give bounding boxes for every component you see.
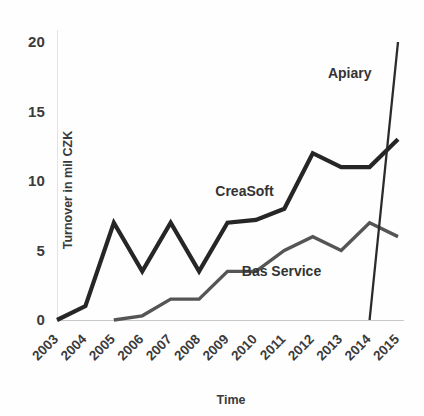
y-tick-label-15: 15 bbox=[28, 103, 45, 120]
series-label-bas-service: Bas Service bbox=[242, 263, 322, 279]
y-tick-label-10: 10 bbox=[28, 172, 45, 189]
y-axis-title: Turnover in mil CZK bbox=[61, 131, 75, 250]
x-axis-title: Time bbox=[217, 393, 246, 407]
y-tick-label-20: 20 bbox=[28, 33, 45, 50]
line-chart-figure: 0 5 10 15 20 Turnover in mil CZK CreaSof… bbox=[0, 0, 424, 416]
y-tick-label-0: 0 bbox=[36, 311, 45, 328]
chart-canvas: 0 5 10 15 20 Turnover in mil CZK CreaSof… bbox=[0, 0, 424, 416]
y-tick-label-5: 5 bbox=[36, 242, 45, 259]
series-label-creasoft: CreaSoft bbox=[215, 183, 274, 199]
series-label-apiary: Apiary bbox=[328, 65, 372, 81]
